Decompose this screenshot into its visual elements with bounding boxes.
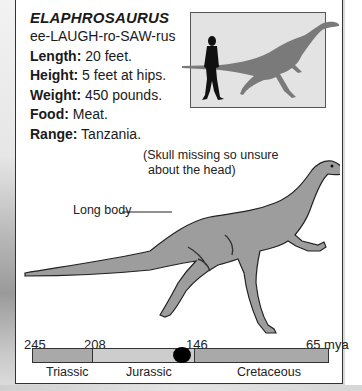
fact-value: 5 feet at hips.	[78, 67, 166, 83]
dinosaur-name: ELAPHROSAURUS	[30, 8, 175, 27]
fact-value: Tanzania.	[77, 126, 141, 142]
fact-height: Height: 5 feet at hips.	[30, 66, 175, 86]
fact-value: 20 feet.	[81, 48, 132, 64]
fact-label: Height:	[30, 67, 78, 83]
dinosaur-illustration	[20, 155, 340, 340]
pronunciation: ee-LAUGH-ro-SAW-rus	[30, 27, 175, 47]
background-bottom	[0, 385, 362, 391]
fact-range: Range: Tanzania.	[30, 125, 175, 145]
period-label-triassic: Triassic	[46, 365, 89, 379]
fact-weight: Weight: 450 pounds.	[30, 86, 175, 106]
background-texture	[0, 0, 16, 391]
fact-label: Weight:	[30, 87, 81, 103]
elaphrosaurus-body-icon	[25, 161, 340, 333]
timeline-marker-dot-icon	[173, 347, 191, 363]
fact-label: Food:	[30, 106, 69, 122]
fact-length: Length: 20 feet.	[30, 47, 175, 67]
fact-label: Range:	[30, 126, 77, 142]
fact-value: 450 pounds.	[81, 87, 162, 103]
period-label-cretaceous: Cretaceous	[237, 365, 301, 379]
timeline-segment-cretaceous	[195, 349, 328, 362]
size-comparison-figure	[180, 15, 350, 105]
fact-label: Length:	[30, 48, 81, 64]
period-label-jurassic: Jurassic	[126, 365, 172, 379]
fact-list: ELAPHROSAURUS ee-LAUGH-ro-SAW-rus Length…	[30, 8, 175, 144]
timeline-segment-triassic	[33, 349, 93, 362]
fact-food: Food: Meat.	[30, 105, 175, 125]
fact-value: Meat.	[69, 106, 108, 122]
